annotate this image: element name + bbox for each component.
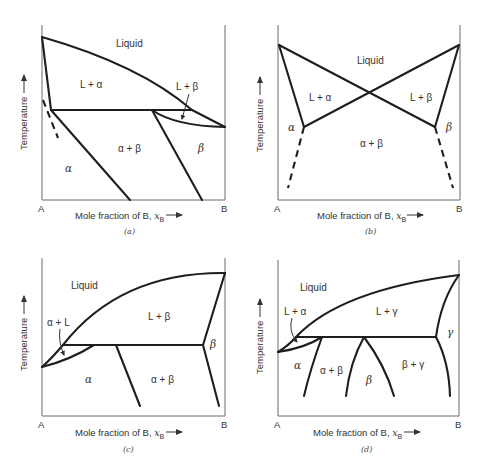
region-label-alpha-beta: α + β [151, 374, 174, 385]
region-label-l-gamma: L + γ [376, 306, 398, 317]
region-label-beta: β [365, 374, 372, 386]
x-end-right-d: B [455, 419, 461, 430]
diagram-a: Liquid L + α L + β α + β α β Temperature… [18, 25, 227, 236]
region-label-alpha-l: α + L [47, 317, 70, 328]
diagram-c: Liquid L + β α + L β α α + β Temperature… [18, 258, 227, 454]
beta-solvus-a [152, 110, 202, 200]
region-label-l-alpha: L + α [80, 79, 103, 90]
y-axis-label-c: Temperature [18, 318, 29, 371]
x-end-right-a: B [221, 203, 227, 214]
region-label-beta-gamma: β + γ [402, 359, 424, 370]
region-label-beta: β [445, 121, 452, 133]
solvus-beta-b [435, 127, 453, 188]
caption-a: (a) [124, 227, 135, 236]
x-axis-label-b: Mole fraction of B, xB [317, 210, 407, 223]
region-label-alpha: α [65, 162, 72, 174]
region-label-l-alpha: L + α [309, 92, 332, 103]
region-label-alpha: α [85, 373, 92, 385]
frame-b [278, 25, 460, 200]
beta-solidus-c [203, 273, 225, 345]
y-axis-label-a: Temperature [18, 97, 29, 150]
region-label-gamma: γ [447, 326, 454, 338]
x-end-left-b: A [274, 203, 281, 214]
alpha-solvus-a [51, 110, 130, 200]
region-label-liquid: Liquid [357, 55, 384, 66]
x-end-right-c: B [221, 419, 227, 430]
x-axis-label-d: Mole fraction of B, xB [313, 427, 403, 440]
beta-solidus-a [152, 110, 225, 127]
diagram-d: Liquid L + α L + γ γ α α + β β β + γ Tem… [254, 260, 461, 454]
region-label-l-beta: L + β [148, 311, 171, 322]
y-axis-label-b: Temperature [254, 99, 265, 152]
x-end-right-b: B [456, 203, 462, 214]
beta-right-boundary-d [364, 337, 394, 396]
region-label-l-alpha: L + α [284, 306, 307, 317]
x-end-left-a: A [38, 203, 45, 214]
alpha-solidus-c [42, 345, 94, 367]
region-label-alpha-beta: α + β [360, 138, 383, 149]
region-label-l-beta: L + β [410, 92, 433, 103]
region-label-alpha: α [288, 121, 295, 133]
region-label-beta: β [197, 142, 204, 154]
alpha-solvus-c [116, 345, 140, 406]
phase-diagram-figure: Liquid L + α L + β α + β α β Temperature… [0, 0, 480, 468]
region-label-liquid: Liquid [71, 280, 98, 291]
region-label-alpha-beta: α + β [320, 365, 343, 376]
x-axis-label-c: Mole fraction of B, xB [75, 427, 165, 440]
gamma-solvus-d [436, 337, 450, 396]
region-label-liquid: Liquid [300, 282, 327, 293]
region-label-liquid: Liquid [116, 38, 143, 49]
alpha-l-pointer-arrow [60, 329, 65, 355]
beta-solvus-c [203, 345, 219, 406]
caption-d: (d) [361, 445, 372, 454]
beta-left-boundary-d [346, 337, 364, 396]
solidus-beta-b [435, 45, 459, 127]
y-axis-label-d: Temperature [254, 321, 265, 374]
caption-b: (b) [365, 227, 376, 236]
caption-c: (c) [123, 445, 134, 454]
alpha-solidus-d [278, 337, 322, 352]
region-label-beta: β [209, 338, 216, 350]
solvus-alpha-b [288, 127, 304, 188]
region-label-alpha: α [294, 359, 301, 371]
x-axis-label-a: Mole fraction of B, xB [75, 210, 165, 223]
region-label-l-beta: L + β [176, 81, 199, 92]
x-end-left-d: A [274, 419, 281, 430]
solidus-alpha-a [42, 37, 51, 110]
x-end-left-c: A [38, 419, 45, 430]
region-label-alpha-beta: α + β [118, 143, 141, 154]
diagram-b: Liquid L + α L + β α β α + β Temperature… [254, 25, 462, 236]
